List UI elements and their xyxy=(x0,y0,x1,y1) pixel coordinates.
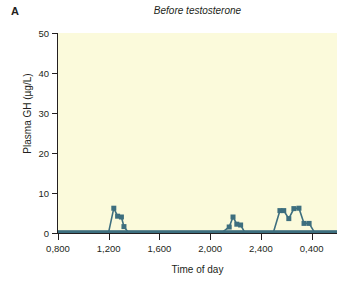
data-point-marker xyxy=(121,224,126,229)
data-point-marker xyxy=(119,215,124,220)
data-series-svg xyxy=(58,33,337,233)
x-axis-tick-label: 1,200 xyxy=(97,243,121,254)
chart-title: Before testosterone xyxy=(58,5,337,16)
x-axis-tick xyxy=(261,234,262,240)
y-axis-tick-label: 30 xyxy=(38,108,49,119)
x-axis-line xyxy=(58,233,337,234)
panel-label: A xyxy=(11,5,19,17)
plot-area xyxy=(58,33,337,233)
series-markers xyxy=(111,206,311,230)
y-axis-tick-label: 40 xyxy=(38,68,49,79)
y-axis-tick-label: 10 xyxy=(38,188,49,199)
x-axis-title: Time of day xyxy=(58,264,337,275)
x-axis-tick xyxy=(159,234,160,240)
x-axis-tick-label: 2,400 xyxy=(249,243,273,254)
y-axis-tick-label: 0 xyxy=(44,228,49,239)
y-axis-tick xyxy=(52,193,58,194)
y-axis-line xyxy=(57,33,58,233)
y-axis-tick xyxy=(52,153,58,154)
data-point-marker xyxy=(111,206,116,211)
data-point-marker xyxy=(281,208,286,213)
y-axis-tick-label: 20 xyxy=(38,148,49,159)
x-axis-tick xyxy=(210,234,211,240)
figure-panel-a: A Before testosterone 01020304050 0,8001… xyxy=(0,0,345,287)
data-point-marker xyxy=(296,206,301,211)
data-point-marker xyxy=(238,223,243,228)
x-axis-tick-label: 0,800 xyxy=(46,243,70,254)
y-axis-title: Plasma GH (µg/L) xyxy=(22,34,33,194)
x-axis-tick xyxy=(109,234,110,240)
data-point-marker xyxy=(231,215,236,220)
data-point-marker xyxy=(307,221,312,226)
x-axis-tick-label: 0,400 xyxy=(300,243,324,254)
data-point-marker xyxy=(227,225,232,230)
series-line xyxy=(58,208,337,232)
data-point-marker xyxy=(302,221,307,226)
data-point-marker xyxy=(286,216,291,221)
y-axis-tick xyxy=(52,113,58,114)
y-axis-tick xyxy=(52,33,58,34)
x-axis-tick-label: 1,600 xyxy=(148,243,172,254)
x-axis-tick xyxy=(58,234,59,240)
x-axis-tick xyxy=(312,234,313,240)
y-axis-tick-label: 50 xyxy=(38,28,49,39)
data-point-marker xyxy=(291,206,296,211)
x-axis-tick-label: 2,000 xyxy=(198,243,222,254)
y-axis-tick xyxy=(52,73,58,74)
